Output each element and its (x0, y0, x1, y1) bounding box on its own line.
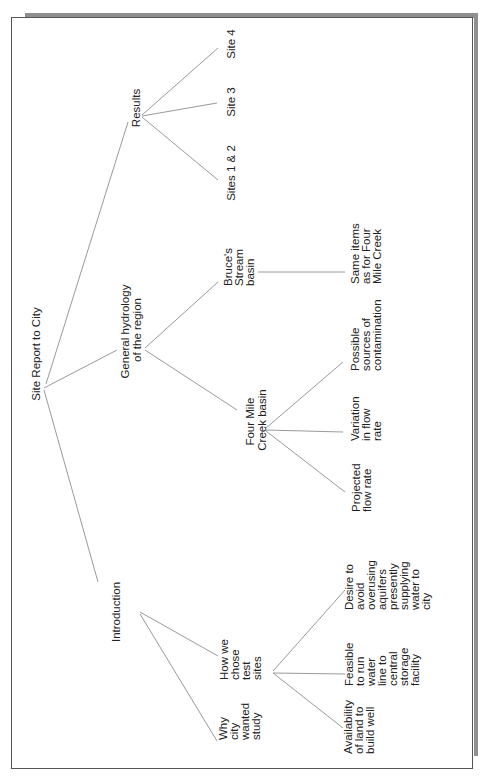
svg-text:Projected flow rate: Projected flow rate (350, 460, 373, 512)
node-how-chose: How we chose test sites (218, 636, 263, 680)
node-site3: Site 3 (225, 87, 237, 116)
node-label: General hydrology (119, 284, 131, 378)
svg-text:Site Report to City: Site Report to City (30, 307, 42, 401)
node-label: sites (251, 656, 263, 680)
edge-fourmile-variation (266, 430, 343, 432)
node-label: Four Mile (244, 398, 256, 446)
node-bruces: Bruce's Stream basin (222, 245, 256, 286)
node-projected: Projected flow rate (350, 460, 373, 512)
tree-diagram: Site Report to City Introduction Why cit… (0, 0, 490, 779)
edge-root-introduction (44, 390, 98, 582)
edge-fourmile-projected (266, 431, 345, 492)
node-label: Introduction (110, 582, 122, 642)
node-label: Creek basin (256, 389, 268, 450)
node-label: study (250, 712, 262, 740)
svg-text:Availability of land to: Availability of land to build well (342, 697, 376, 754)
edge-how-availability (273, 673, 343, 728)
edge-hydrology-fourmile (145, 350, 237, 410)
svg-text:Site 3: Site 3 (225, 87, 237, 116)
edge-how-desire (273, 590, 345, 671)
node-label: Site 4 (225, 29, 237, 59)
svg-text:Possible sources of: Possible sources of contamination (349, 299, 383, 371)
node-label: Site 3 (225, 87, 237, 116)
node-label: basin (244, 259, 256, 287)
node-label: Mile Creek (371, 229, 383, 284)
edge-root-results (46, 122, 128, 384)
svg-text:Feasible to run wa: Feasible to run water line to central st… (343, 639, 421, 687)
svg-text:Sites 1 & 2: Sites 1 & 2 (225, 145, 237, 201)
node-label: Results (130, 89, 142, 128)
node-variation: Variation in flow rate (349, 393, 383, 441)
svg-text:Bruce's Stream bas: Bruce's Stream basin (222, 245, 256, 286)
node-label: Site Report to City (30, 307, 42, 401)
svg-text:General hydrology of the: General hydrology of the region (119, 281, 143, 378)
node-same-items: Same items as for Four Mile Creek (349, 220, 383, 284)
node-introduction: Introduction (110, 582, 122, 642)
node-four-mile: Four Mile Creek basin (244, 389, 268, 450)
node-label: contamination (371, 299, 383, 371)
edge-results-sites12 (142, 117, 218, 180)
node-label: of the region (131, 298, 143, 362)
edge-introduction-why (140, 614, 217, 741)
svg-text:Results: Results (130, 89, 142, 128)
svg-text:Introduction: Introduction (110, 582, 122, 642)
node-feasible: Feasible to run water line to central st… (343, 639, 421, 687)
node-label: city (420, 593, 432, 611)
node-label: flow rate (361, 469, 373, 512)
node-sites12: Sites 1 & 2 (225, 145, 237, 201)
svg-text:How we chose test: How we chose test sites (218, 636, 263, 680)
svg-text:Why city wanted: Why city wanted study (217, 700, 262, 741)
edge-hydrology-bruces (145, 282, 218, 348)
edge-how-feasible (273, 673, 345, 674)
node-root: Site Report to City (30, 307, 42, 401)
svg-text:Four Mile Creek basin: Four Mile Creek basin (244, 389, 268, 450)
node-desire: Desire to avoid overusing aquifers prese… (343, 557, 432, 611)
svg-text:Desire to avoid ov: Desire to avoid overusing aquifers prese… (343, 557, 432, 611)
node-availability: Availability of land to build well (342, 697, 376, 754)
node-hydrology: General hydrology of the region (119, 281, 143, 378)
svg-text:Site 4: Site 4 (225, 29, 237, 59)
node-why-city: Why city wanted study (217, 700, 262, 741)
svg-text:Variation in flow: Variation in flow rate (349, 393, 383, 441)
svg-text:Same items as for Four: Same items as for Four Mile Creek (349, 220, 383, 284)
edges (44, 48, 345, 741)
node-site4: Site 4 (225, 29, 237, 59)
node-label: build well (364, 707, 376, 754)
node-label: Sites 1 & 2 (225, 145, 237, 201)
node-label: facility (409, 654, 421, 686)
node-label: rate (371, 421, 383, 441)
edge-fourmile-possible (266, 362, 343, 428)
node-possible: Possible sources of contamination (349, 299, 383, 371)
node-results: Results (130, 89, 142, 128)
